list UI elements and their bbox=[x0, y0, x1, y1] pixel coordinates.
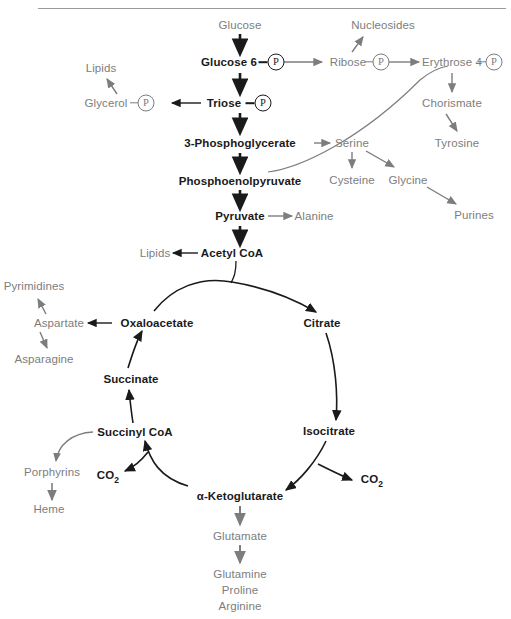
node-aspartate: Aspartate bbox=[34, 317, 84, 330]
bond-triose-phosphate bbox=[246, 102, 255, 104]
phosphate-icon-triose: P bbox=[255, 95, 272, 112]
node-nucleosides: Nucleosides bbox=[351, 19, 415, 32]
node-glycerol: Glycerol bbox=[85, 97, 128, 110]
node-co2-left: CO2 bbox=[97, 469, 119, 486]
node-glycine: Glycine bbox=[388, 174, 427, 187]
pathway-diagram-canvas: Glucose Glucose 6 P Nucleosides Ribose P… bbox=[0, 0, 511, 619]
node-glucose-6-phosphate: Glucose 6 bbox=[201, 56, 257, 69]
arrow-succinate-to-oxaloacetate bbox=[128, 331, 142, 368]
arrow-aspartate-to-pyrimidines bbox=[38, 299, 46, 314]
node-oxaloacetate: Oxaloacetate bbox=[121, 317, 194, 330]
node-acetyl-coa: Acetyl CoA bbox=[201, 247, 263, 260]
phosphate-icon-glycerol: P bbox=[138, 95, 155, 112]
node-co2-right: CO2 bbox=[361, 473, 383, 490]
arc-oxaloacetate-to-citrate bbox=[154, 280, 316, 312]
node-purines: Purines bbox=[454, 209, 494, 222]
co2-left-text: CO bbox=[97, 469, 114, 481]
node-succinyl-coa: Succinyl CoA bbox=[97, 426, 172, 439]
node-3-phosphoglycerate: 3-Phosphoglycerate bbox=[184, 137, 296, 150]
arrow-ribose-to-nucleosides bbox=[352, 37, 363, 52]
node-porphyrins: Porphyrins bbox=[24, 466, 80, 479]
node-glutamate: Glutamate bbox=[213, 530, 267, 543]
pathway-arrows-layer bbox=[0, 0, 511, 619]
arrow-serine-to-glycine bbox=[366, 151, 394, 167]
node-alanine: Alanine bbox=[294, 210, 333, 223]
arrow-glycine-to-purines bbox=[427, 187, 456, 204]
arrow-isocitrate-to-ketoglutarate bbox=[286, 441, 326, 490]
arrow-citrate-to-isocitrate bbox=[326, 333, 337, 420]
node-lipids-from-glycerol: Lipids bbox=[86, 62, 117, 75]
phosphate-icon-ribose: P bbox=[373, 54, 390, 71]
node-ribose: Ribose bbox=[330, 56, 366, 69]
node-proline: Proline bbox=[222, 584, 259, 597]
node-asparagine: Asparagine bbox=[14, 353, 73, 366]
phosphate-icon-erythrose4: P bbox=[486, 54, 503, 71]
arrow-branch-to-co2-left bbox=[125, 452, 148, 471]
node-cysteine: Cysteine bbox=[329, 174, 375, 187]
top-horizontal-rule bbox=[38, 8, 506, 9]
node-heme: Heme bbox=[33, 503, 64, 516]
node-isocitrate: Isocitrate bbox=[303, 425, 355, 438]
arrow-chorismate-to-tyrosine bbox=[446, 114, 457, 131]
node-triose-phosphate: Triose bbox=[207, 97, 241, 110]
arrow-succinylcoa-to-succinate bbox=[129, 390, 133, 423]
co2-right-subscript: 2 bbox=[378, 479, 383, 489]
node-succinate: Succinate bbox=[103, 373, 158, 386]
node-erythrose-4-phosphate: Erythrose 4 bbox=[422, 56, 482, 69]
node-arginine: Arginine bbox=[219, 600, 262, 613]
co2-left-subscript: 2 bbox=[114, 475, 119, 485]
node-phosphoenolpyruvate: Phosphoenolpyruvate bbox=[179, 175, 302, 188]
bond-glucose6-phosphate bbox=[259, 61, 268, 63]
node-tyrosine: Tyrosine bbox=[435, 137, 479, 150]
node-citrate: Citrate bbox=[303, 317, 340, 330]
node-pyrimidines: Pyrimidines bbox=[4, 280, 65, 293]
arrow-glycerol-to-lipids bbox=[107, 79, 117, 94]
curve-pep-to-erythrose4 bbox=[268, 66, 448, 172]
node-serine: Serine bbox=[335, 137, 369, 150]
node-chorismate: Chorismate bbox=[422, 97, 482, 110]
stem-acetylcoa-into-cycle bbox=[231, 261, 236, 283]
node-pyruvate: Pyruvate bbox=[215, 210, 264, 223]
node-alpha-ketoglutarate: α-Ketoglutarate bbox=[197, 490, 284, 503]
arrow-ketoglutarate-to-succinylcoa bbox=[145, 441, 188, 486]
arrow-aspartate-to-asparagine bbox=[40, 332, 47, 348]
node-glucose: Glucose bbox=[219, 19, 262, 32]
co2-right-text: CO bbox=[361, 473, 378, 485]
phosphate-icon-glucose6: P bbox=[268, 54, 285, 71]
node-lipids-from-acetylcoa: Lipids bbox=[140, 247, 171, 260]
arrow-succinylcoa-to-porphyrins bbox=[56, 432, 93, 461]
arrow-branch-to-co2-right bbox=[318, 464, 352, 480]
node-glutamine: Glutamine bbox=[213, 568, 266, 581]
